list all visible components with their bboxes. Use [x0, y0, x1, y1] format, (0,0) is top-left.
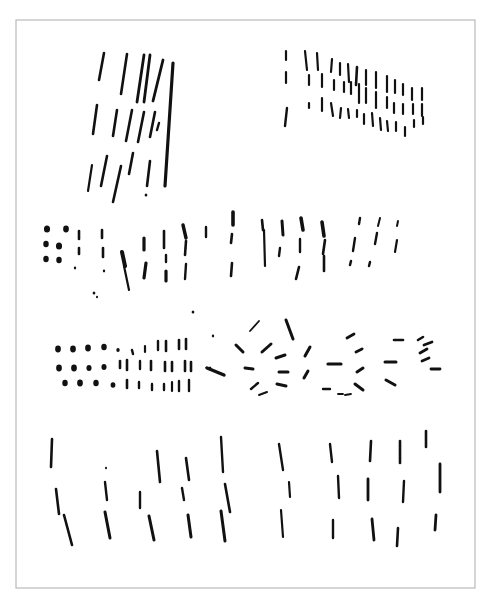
- ink-stroke: [340, 108, 341, 118]
- ink-stroke: [132, 350, 133, 354]
- ink-stroke: [350, 261, 351, 265]
- ink-dot: [70, 346, 76, 353]
- ink-dot: [96, 296, 98, 298]
- ink-dot: [101, 364, 106, 370]
- ink-stroke: [372, 519, 374, 540]
- ink-stroke: [277, 384, 286, 386]
- ink-stroke: [356, 67, 357, 85]
- ink-stroke: [338, 476, 339, 498]
- ink-dot: [55, 346, 61, 353]
- ink-dot: [86, 365, 91, 371]
- ink-stroke: [51, 439, 52, 467]
- ink-dot: [56, 242, 62, 249]
- ink-stroke: [397, 221, 398, 226]
- ink-stroke: [345, 394, 351, 395]
- ink-stroke: [369, 262, 370, 266]
- ink-stroke: [264, 230, 265, 266]
- ink-stroke: [262, 220, 263, 230]
- ink-dot: [62, 380, 67, 386]
- ink-dot: [56, 365, 62, 372]
- ink-dot: [145, 193, 148, 196]
- ink-dot: [111, 382, 116, 388]
- ink-dot: [43, 241, 48, 247]
- ink-stroke: [279, 248, 280, 256]
- ink-stroke: [372, 113, 373, 126]
- ink-dot: [56, 257, 61, 263]
- ink-stroke: [322, 222, 324, 236]
- ink-dot: [74, 267, 76, 270]
- ink-stroke: [245, 368, 253, 369]
- ink-dot: [105, 467, 107, 469]
- ink-stroke: [289, 482, 290, 497]
- ink-stroke: [403, 481, 404, 502]
- ink-stroke: [185, 241, 186, 255]
- ink-dot: [85, 345, 91, 352]
- ink-dot: [93, 291, 96, 294]
- ink-stroke: [185, 264, 186, 279]
- ink-stroke: [359, 218, 360, 224]
- page-frame: [16, 20, 475, 588]
- ink-stroke: [231, 234, 232, 243]
- ink-dot: [212, 335, 214, 338]
- ink-stroke: [282, 221, 283, 235]
- ink-stroke: [435, 515, 436, 530]
- ink-dot: [101, 344, 106, 350]
- ink-stroke: [331, 59, 332, 72]
- ink-dot: [63, 226, 69, 233]
- ink-stroke: [317, 53, 318, 70]
- ink-stroke: [370, 441, 371, 461]
- ink-dot: [93, 380, 98, 386]
- sketch-canvas: [0, 0, 490, 605]
- ink-stroke: [387, 121, 388, 131]
- ink-stroke: [348, 64, 349, 82]
- ink-stroke: [231, 263, 232, 276]
- ink-dot: [116, 348, 119, 352]
- ink-dot: [192, 310, 195, 313]
- ink-dot: [103, 270, 105, 273]
- ink-dot: [77, 380, 83, 387]
- ink-dot: [71, 365, 77, 372]
- ink-stroke: [144, 263, 146, 278]
- ink-stroke: [397, 528, 398, 546]
- ink-dot: [43, 256, 48, 262]
- ink-dot: [44, 225, 50, 232]
- ink-stroke: [380, 118, 381, 130]
- ink-stroke: [348, 109, 349, 118]
- ink-stroke: [301, 218, 303, 230]
